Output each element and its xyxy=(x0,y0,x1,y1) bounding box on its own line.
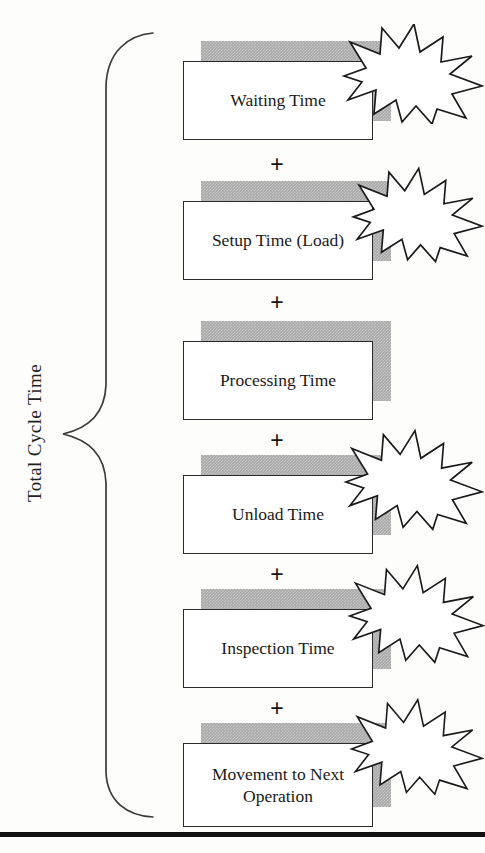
plus-operator: + xyxy=(255,697,299,720)
box-label: Setup Time (Load) xyxy=(183,201,373,280)
box-label: Waiting Time xyxy=(183,61,373,140)
box-label: Unload Time xyxy=(183,475,373,554)
box-unload-time[interactable]: Unload Time xyxy=(183,455,391,555)
box-label: Inspection Time xyxy=(183,609,373,688)
box-setup-time[interactable]: Setup Time (Load) xyxy=(183,181,391,281)
box-waiting-time[interactable]: Waiting Time xyxy=(183,41,391,141)
plus-operator: + xyxy=(255,563,299,586)
component-stack: Waiting Time + Setup Time (Load) + xyxy=(0,0,485,853)
bottom-divider xyxy=(0,832,485,837)
plus-operator: + xyxy=(255,291,299,314)
box-movement-to-next-operation[interactable]: Movement to Next Operation xyxy=(183,723,391,827)
cycle-time-diagram: Total Cycle Time Waiting Time + Setup Ti… xyxy=(0,0,485,853)
plus-operator: + xyxy=(255,429,299,452)
plus-operator: + xyxy=(255,153,299,176)
box-inspection-time[interactable]: Inspection Time xyxy=(183,589,391,689)
box-label: Movement to Next Operation xyxy=(183,743,373,827)
box-processing-time[interactable]: Processing Time xyxy=(183,321,391,421)
box-label: Processing Time xyxy=(183,341,373,420)
